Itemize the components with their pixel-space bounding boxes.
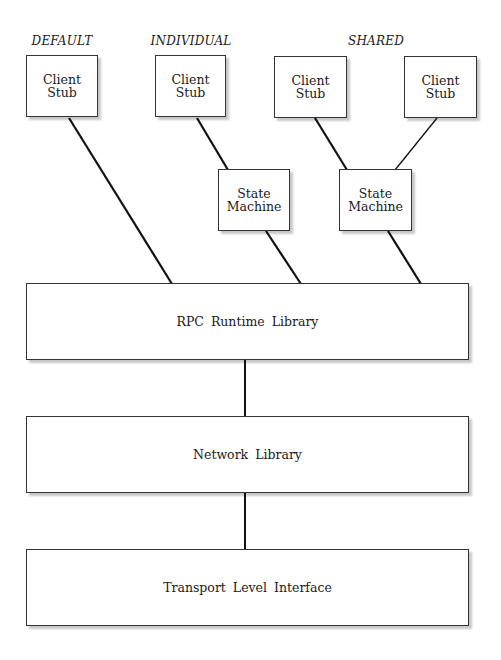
layer-label: Network Library <box>193 447 302 462</box>
client-stub-default: Client Stub <box>26 55 98 117</box>
connector-individual-stub-to-sm <box>197 118 228 170</box>
layer-rpc-runtime-library: RPC Runtime Library <box>26 283 469 360</box>
client-stub-label: Client Stub <box>421 74 459 100</box>
layer-transport-level-interface: Transport Level Interface <box>26 549 469 626</box>
connector-individual-sm-to-rpc <box>266 231 301 284</box>
client-stub-shared-1: Client Stub <box>274 56 347 118</box>
layer-label: Transport Level Interface <box>163 580 332 595</box>
rpc-architecture-diagram: DEFAULT INDIVIDUAL SHARED Client Stub Cl… <box>0 0 501 660</box>
group-label-default: DEFAULT <box>32 34 93 48</box>
client-stub-individual: Client Stub <box>155 55 226 117</box>
connector-shared-stub2-to-sm <box>395 118 437 170</box>
layer-network-library: Network Library <box>26 416 469 493</box>
connector-default-stub-to-rpc <box>69 118 172 284</box>
state-machine-individual: State Machine <box>218 169 290 231</box>
layer-label: RPC Runtime Library <box>177 314 319 329</box>
state-machine-label: State Machine <box>227 187 282 213</box>
client-stub-label: Client Stub <box>43 73 81 99</box>
group-label-individual: INDIVIDUAL <box>150 34 231 48</box>
group-label-shared: SHARED <box>348 34 404 48</box>
state-machine-shared: State Machine <box>339 169 412 231</box>
connector-shared-stub1-to-sm <box>315 118 347 170</box>
state-machine-label: State Machine <box>348 187 403 213</box>
client-stub-label: Client Stub <box>171 73 209 99</box>
connector-shared-sm-to-rpc <box>388 231 421 284</box>
client-stub-label: Client Stub <box>291 74 329 100</box>
client-stub-shared-2: Client Stub <box>404 56 477 118</box>
